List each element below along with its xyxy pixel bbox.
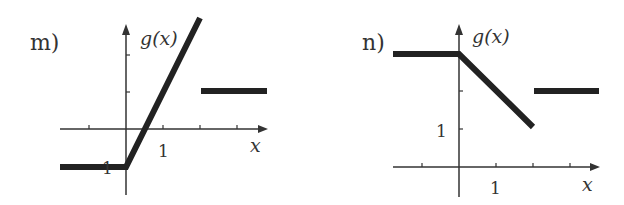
- y-axis-arrow-icon: [455, 24, 463, 35]
- plot-label: n): [362, 30, 385, 55]
- x-axis-label: x: [582, 173, 593, 195]
- plot-label: m): [30, 30, 59, 55]
- x-axis-label: x: [250, 134, 261, 156]
- plot-m: m) g(x) x 1 1: [30, 18, 268, 195]
- function-graph: [393, 54, 599, 127]
- y-axis-label: g(x): [140, 27, 178, 49]
- x-axis-arrow-icon: [258, 125, 268, 133]
- y-tick-label: 1: [102, 158, 113, 178]
- y-axis-arrow-icon: [122, 24, 130, 35]
- x-tick-label: 1: [158, 141, 169, 161]
- x-tick-label: 1: [490, 178, 501, 198]
- figure: m) g(x) x 1 1 n): [0, 0, 624, 205]
- y-tick-label: 1: [436, 121, 447, 141]
- y-axis-label: g(x): [472, 25, 510, 47]
- x-axis-arrow-icon: [590, 163, 600, 171]
- plot-n: n) g(x) x 1 1: [362, 24, 600, 198]
